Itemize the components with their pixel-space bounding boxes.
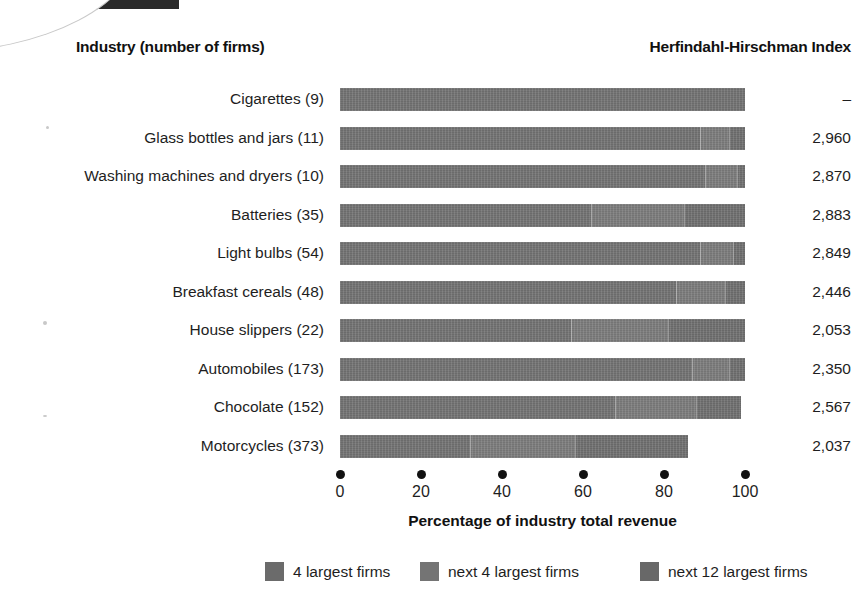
chart-row: Motorcycles (373)2,037 <box>0 431 859 461</box>
bar-segment-1 <box>340 242 700 265</box>
bar-segment-2 <box>591 204 684 227</box>
bar-track <box>340 165 745 188</box>
row-label-industry: Chocolate (152) <box>0 392 324 422</box>
bar-segment-2 <box>700 127 728 150</box>
bar-segment-2 <box>676 281 725 304</box>
chart-row: Automobiles (173)2,350 <box>0 354 859 384</box>
bar-segment-3 <box>575 435 688 458</box>
row-label-industry: Motorcycles (373) <box>0 431 324 461</box>
x-axis-tick-dot <box>498 470 507 479</box>
chart-row: Cigarettes (9)– <box>0 84 859 114</box>
x-axis-tick-label: 20 <box>412 483 430 501</box>
x-axis-tick-dot <box>336 470 345 479</box>
row-label-industry: Washing machines and dryers (10) <box>0 161 324 191</box>
hhi-value: – <box>755 84 851 114</box>
bar-segment-1 <box>340 127 700 150</box>
hhi-value: 2,350 <box>755 354 851 384</box>
hhi-value: 2,567 <box>755 392 851 422</box>
x-axis-tick-dot <box>579 470 588 479</box>
bar-segment-2 <box>692 358 728 381</box>
stacked-bar <box>340 396 741 419</box>
bar-segment-2 <box>571 319 668 342</box>
legend-label: next 12 largest firms <box>668 563 808 581</box>
hhi-value: 2,870 <box>755 161 851 191</box>
stacked-bar <box>340 127 745 150</box>
bar-track <box>340 242 745 265</box>
legend-label: next 4 largest firms <box>448 563 579 581</box>
stacked-bar <box>340 242 745 265</box>
hhi-value: 2,849 <box>755 238 851 268</box>
bar-segment-2 <box>705 165 737 188</box>
legend-item-next-12-largest-firms: next 12 largest firms <box>640 562 808 581</box>
row-label-industry: Batteries (35) <box>0 200 324 230</box>
row-label-industry: House slippers (22) <box>0 315 324 345</box>
bar-segment-3 <box>725 281 745 304</box>
bar-segment-1 <box>340 204 591 227</box>
bar-segment-1 <box>340 435 470 458</box>
bar-track <box>340 204 745 227</box>
x-axis-tick-label: 0 <box>336 483 345 501</box>
bar-segment-1 <box>340 88 745 111</box>
x-axis-tick-dot <box>741 470 750 479</box>
stacked-bar <box>340 204 745 227</box>
bar-segment-1 <box>340 165 705 188</box>
legend-label: 4 largest firms <box>293 563 390 581</box>
x-axis-tick-dot <box>417 470 426 479</box>
x-axis-tick-label: 100 <box>732 483 759 501</box>
bar-track <box>340 396 745 419</box>
chart-row: Chocolate (152)2,567 <box>0 392 859 422</box>
bar-segment-3 <box>684 204 745 227</box>
legend-item-4-largest-firms: 4 largest firms <box>265 562 390 581</box>
chart-row: House slippers (22)2,053 <box>0 315 859 345</box>
legend-item-next-4-largest-firms: next 4 largest firms <box>420 562 579 581</box>
chart-row: Washing machines and dryers (10)2,870 <box>0 161 859 191</box>
bar-track <box>340 435 745 458</box>
bar-segment-3 <box>668 319 745 342</box>
hhi-value: 2,053 <box>755 315 851 345</box>
row-label-industry: Glass bottles and jars (11) <box>0 123 324 153</box>
x-axis-tick-label: 80 <box>655 483 673 501</box>
stacked-bar <box>340 358 745 381</box>
hhi-value: 2,446 <box>755 277 851 307</box>
bar-segment-3 <box>729 358 745 381</box>
bar-track <box>340 88 745 111</box>
legend-swatch-next-12-largest-firms <box>640 562 659 581</box>
bar-track <box>340 319 745 342</box>
stacked-bar <box>340 88 745 111</box>
hhi-value: 2,883 <box>755 200 851 230</box>
x-axis-tick-label: 60 <box>574 483 592 501</box>
bar-track <box>340 127 745 150</box>
x-axis: 020406080100 <box>340 470 745 510</box>
stacked-bar <box>340 319 745 342</box>
bar-segment-3 <box>737 165 745 188</box>
legend-swatch-next-4-largest-firms <box>420 562 439 581</box>
chart-row: Breakfast cereals (48)2,446 <box>0 277 859 307</box>
bar-segment-3 <box>696 396 741 419</box>
row-label-industry: Cigarettes (9) <box>0 84 324 114</box>
bar-segment-1 <box>340 281 676 304</box>
bar-segment-1 <box>340 396 615 419</box>
bar-segment-2 <box>700 242 732 265</box>
legend-swatch-4-largest-firms <box>265 562 284 581</box>
x-axis-tick-dot <box>660 470 669 479</box>
bar-segment-1 <box>340 358 692 381</box>
bar-track <box>340 358 745 381</box>
stacked-bar <box>340 281 745 304</box>
chart-legend: 4 largest firms next 4 largest firms nex… <box>265 562 859 588</box>
bar-segment-3 <box>729 127 745 150</box>
row-label-industry: Automobiles (173) <box>0 354 324 384</box>
stacked-bar <box>340 435 688 458</box>
bar-segment-2 <box>470 435 575 458</box>
x-axis-tick-label: 40 <box>493 483 511 501</box>
chart-row: Light bulbs (54)2,849 <box>0 238 859 268</box>
hhi-value: 2,037 <box>755 431 851 461</box>
x-axis-title: Percentage of industry total revenue <box>340 512 745 530</box>
bar-segment-1 <box>340 319 571 342</box>
bar-segment-2 <box>615 396 696 419</box>
hhi-value: 2,960 <box>755 123 851 153</box>
bar-track <box>340 281 745 304</box>
chart-row: Glass bottles and jars (11)2,960 <box>0 123 859 153</box>
bar-segment-3 <box>733 242 745 265</box>
stacked-bar-chart: Cigarettes (9)–Glass bottles and jars (1… <box>0 0 859 593</box>
row-label-industry: Light bulbs (54) <box>0 238 324 268</box>
